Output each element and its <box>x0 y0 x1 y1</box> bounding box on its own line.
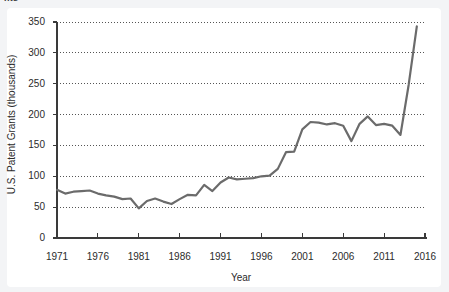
y-axis-tick-label-wrap: 150 <box>17 140 45 150</box>
x-axis-title: Year <box>57 272 425 283</box>
y-axis-tick-label-wrap: 100 <box>17 171 45 181</box>
y-axis-tick-label-wrap: 200 <box>17 110 45 120</box>
x-axis-tick-label: 2016 <box>405 251 445 262</box>
x-axis-tick-label: 1981 <box>119 251 159 262</box>
y-axis-title: U.S. Patent Grants (thousands) <box>6 10 17 240</box>
x-axis-tick-label: 1996 <box>241 251 281 262</box>
data-series-line <box>57 26 417 208</box>
y-axis-tick-label: 0 <box>17 233 45 243</box>
y-axis-tick-label: 350 <box>17 17 45 27</box>
y-axis-tick-label: 300 <box>17 48 45 58</box>
x-axis-tick-label: 1971 <box>37 251 77 262</box>
figure: nts U.S. Patent Grants (thousands) Year … <box>0 0 449 292</box>
y-axis-tick-label-wrap: 0 <box>17 233 45 243</box>
y-axis-tick-label: 50 <box>17 202 45 212</box>
y-axis-tick-label: 100 <box>17 171 45 181</box>
chart-plot-area: U.S. Patent Grants (thousands) Year 0501… <box>0 0 449 292</box>
y-axis-tick-label: 200 <box>17 110 45 120</box>
y-axis-tick-label-wrap: 350 <box>17 17 45 27</box>
x-axis-tick-label: 1991 <box>201 251 241 262</box>
x-axis-tick-label: 2011 <box>364 251 404 262</box>
x-axis-tick-label: 2006 <box>323 251 363 262</box>
x-axis-tick-label: 2001 <box>282 251 322 262</box>
y-axis-tick-label-wrap: 250 <box>17 79 45 89</box>
y-axis-tick-label: 250 <box>17 79 45 89</box>
y-axis-tick-label-wrap: 50 <box>17 202 45 212</box>
line-chart-svg <box>0 0 449 292</box>
y-axis-tick-label: 150 <box>17 140 45 150</box>
y-axis-tick-label-wrap: 300 <box>17 48 45 58</box>
x-axis-tick-label: 1976 <box>78 251 118 262</box>
x-axis-tick-label: 1986 <box>160 251 200 262</box>
